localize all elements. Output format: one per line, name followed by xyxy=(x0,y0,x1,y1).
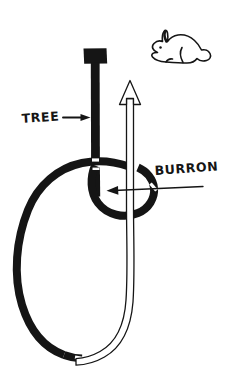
rabbit-icon xyxy=(152,30,211,63)
diagram-page: TREE BURRON xyxy=(0,0,238,384)
tree-label: TREE xyxy=(21,108,60,126)
knot-diagram: TREE BURRON xyxy=(0,0,238,384)
tree-label-group: TREE xyxy=(21,108,90,126)
burron-label: BURRON xyxy=(154,159,219,178)
working-end-rope xyxy=(76,81,141,366)
tree-pointer-arrow xyxy=(63,114,91,121)
